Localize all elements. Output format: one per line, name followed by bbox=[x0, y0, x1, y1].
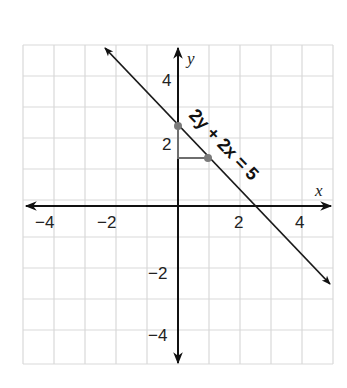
y-tick-label: 2 bbox=[162, 135, 171, 154]
y-tick-label: −4 bbox=[148, 326, 167, 345]
x-tick-label: 4 bbox=[295, 213, 304, 232]
y-axis-label: y bbox=[185, 49, 195, 68]
line-2y-plus-2x-equals-5 bbox=[105, 48, 330, 284]
x-tick-label: 2 bbox=[234, 213, 243, 232]
x-axis-label: x bbox=[314, 181, 323, 200]
point-y-intercept bbox=[174, 122, 182, 130]
y-tick-label: −2 bbox=[148, 264, 167, 283]
x-tick-label: −4 bbox=[35, 213, 54, 232]
x-tick-label: −2 bbox=[97, 213, 116, 232]
y-tick-label: 4 bbox=[162, 71, 171, 90]
point-1-1.5 bbox=[204, 154, 212, 162]
coordinate-plane: y x −4 −2 2 4 4 2 −2 −4 2y + 2x = 5 bbox=[0, 0, 347, 388]
